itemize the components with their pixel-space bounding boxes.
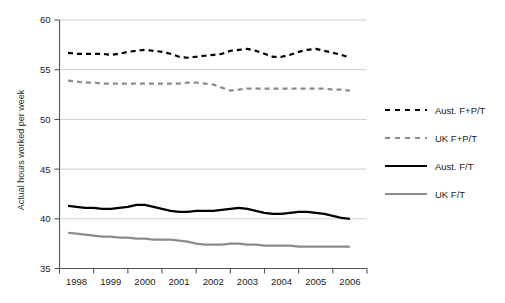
legend-label: UK F+P/T [435, 133, 477, 144]
x-tick-label: 1998 [66, 276, 87, 287]
x-tick-label: 2003 [237, 276, 258, 287]
legend-label: Aust. F+P/T [435, 105, 486, 116]
y-axis-title: Actual hours worked per week [16, 89, 26, 210]
legend-label: Aust. F/T [435, 161, 474, 172]
legend-label: UK F/T [435, 189, 465, 200]
x-tick-label: 2000 [134, 276, 155, 287]
chart-background [0, 0, 505, 303]
x-tick-label: 2004 [271, 276, 292, 287]
y-tick-label: 60 [40, 14, 51, 25]
y-tick-label: 55 [40, 64, 51, 75]
y-tick-label: 35 [40, 263, 51, 274]
x-tick-label: 2005 [305, 276, 326, 287]
x-tick-label: 2001 [169, 276, 190, 287]
x-tick-label: 2006 [339, 276, 360, 287]
y-tick-label: 45 [40, 164, 51, 175]
y-tick-label: 50 [40, 114, 51, 125]
chart-figure: Actual hours worked per week 35404550556… [0, 0, 505, 303]
x-tick-label: 1999 [100, 276, 121, 287]
y-tick-label: 40 [40, 213, 51, 224]
x-tick-label: 2002 [203, 276, 224, 287]
